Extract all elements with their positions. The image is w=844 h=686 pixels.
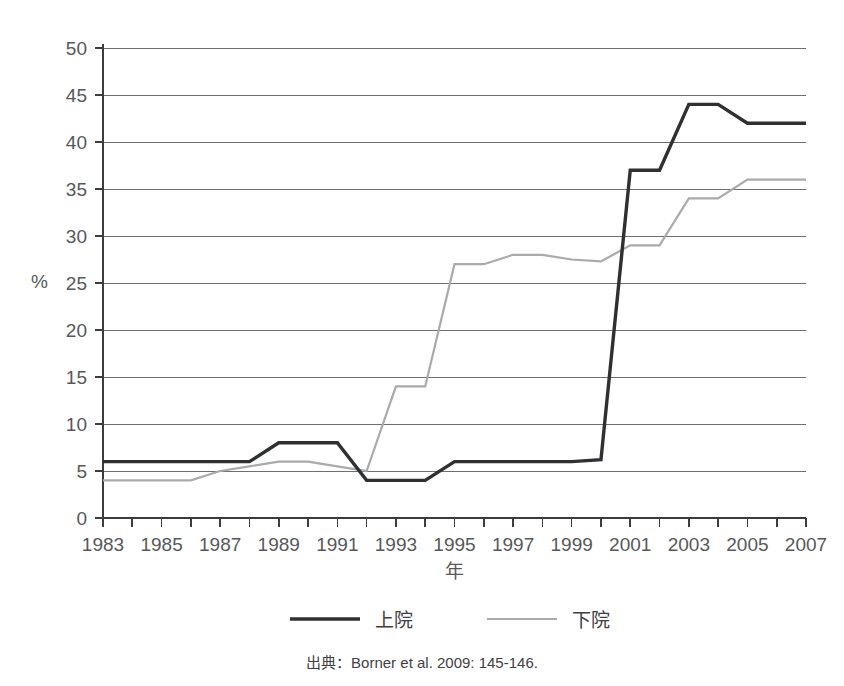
x-tick-label: 1985 xyxy=(140,534,182,555)
x-tick-label: 1999 xyxy=(551,534,593,555)
x-tick-label: 1989 xyxy=(258,534,300,555)
legend-label-lower-house: 下院 xyxy=(572,610,610,631)
x-axis-tick-labels: 1983198519871989199119931995199719992001… xyxy=(82,534,827,555)
x-axis-title: 年 xyxy=(445,561,464,582)
chart-legend: 上院 下院 xyxy=(290,610,610,631)
x-tick-label: 1995 xyxy=(433,534,475,555)
x-tick-label: 1991 xyxy=(316,534,358,555)
y-tick-label: 35 xyxy=(66,179,87,200)
y-axis-tick-labels: 05101520253035404550 xyxy=(66,38,87,529)
x-tick-label: 1997 xyxy=(492,534,534,555)
y-tick-label: 40 xyxy=(66,132,87,153)
chart-figure: 05101520253035404550 1983198519871989199… xyxy=(0,0,844,686)
legend-label-upper-house: 上院 xyxy=(375,610,413,631)
y-tick-label: 10 xyxy=(66,414,87,435)
x-tick-label: 1987 xyxy=(199,534,241,555)
y-axis-unit-label: % xyxy=(31,271,48,292)
x-tick-label: 2005 xyxy=(726,534,768,555)
chart-svg: 05101520253035404550 1983198519871989199… xyxy=(0,0,844,686)
gridlines xyxy=(103,48,806,471)
y-tick-label: 50 xyxy=(66,38,87,59)
x-tick-label: 2003 xyxy=(668,534,710,555)
source-caption: 出典：Borner et al. 2009: 145-146. xyxy=(306,654,538,671)
y-tick-label: 20 xyxy=(66,320,87,341)
y-tick-label: 0 xyxy=(76,508,87,529)
y-tick-label: 15 xyxy=(66,367,87,388)
y-tick-label: 45 xyxy=(66,85,87,106)
y-tick-label: 25 xyxy=(66,273,87,294)
x-tick-label: 2007 xyxy=(785,534,827,555)
x-tick-label: 1993 xyxy=(375,534,417,555)
y-tick-label: 5 xyxy=(76,461,87,482)
x-axis-ticks xyxy=(103,518,806,527)
x-tick-label: 2001 xyxy=(609,534,651,555)
x-tick-label: 1983 xyxy=(82,534,124,555)
y-tick-label: 30 xyxy=(66,226,87,247)
y-axis-ticks xyxy=(95,48,103,518)
